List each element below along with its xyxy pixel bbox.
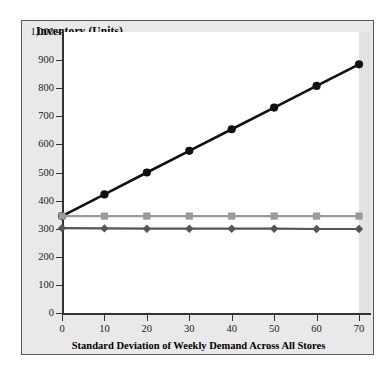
data-point-diamond (58, 224, 66, 232)
chart-figure: Inventory (Units) 0100200300400500600700… (0, 0, 390, 375)
chart-frame: Inventory (Units) 0100200300400500600700… (21, 20, 374, 355)
data-point-diamond (312, 225, 320, 233)
data-point-diamond (185, 225, 193, 233)
data-point-circle (228, 125, 236, 133)
data-point-square (143, 212, 150, 219)
series-rising-inventory (58, 60, 363, 220)
data-point-diamond (228, 225, 236, 233)
data-point-circle (143, 168, 151, 176)
data-point-circle (100, 190, 108, 198)
data-point-square (101, 212, 108, 219)
data-point-square (355, 212, 362, 219)
series-layer (22, 21, 375, 356)
x-axis-title: Standard Deviation of Weekly Demand Acro… (22, 340, 375, 351)
data-point-circle (270, 103, 278, 111)
data-point-diamond (143, 225, 151, 233)
data-point-diamond (270, 225, 278, 233)
data-point-diamond (355, 225, 363, 233)
data-point-diamond (100, 224, 108, 232)
data-point-square (228, 212, 235, 219)
data-point-square (186, 212, 193, 219)
data-point-circle (185, 147, 193, 155)
data-point-circle (355, 60, 363, 68)
series-flat-upper-inventory (58, 212, 362, 219)
series-flat-lower-inventory (58, 224, 363, 233)
data-point-circle (312, 82, 320, 90)
data-point-square (313, 212, 320, 219)
data-point-square (271, 212, 278, 219)
data-point-square (58, 212, 65, 219)
